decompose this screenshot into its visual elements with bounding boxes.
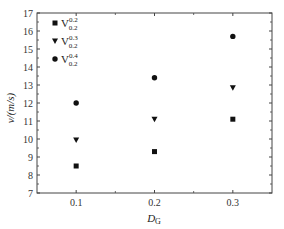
x-tick-label: 0.1: [70, 197, 83, 208]
legend-triangle-down-icon: [52, 39, 58, 45]
legend: V0.20.2V0.30.2V0.40.2: [52, 16, 78, 68]
legend-square-icon: [53, 21, 58, 26]
y-tick-label: 13: [23, 80, 33, 91]
y-tick-label: 9: [28, 152, 33, 163]
y-tick-label: 7: [28, 188, 33, 199]
y-tick-label: 17: [23, 8, 33, 19]
y-tick-label: 16: [23, 26, 33, 37]
legend-entry: V0.40.2: [61, 52, 78, 68]
x-axis-label: DG: [146, 212, 161, 226]
y-axis-label: v/(m/s): [4, 92, 17, 123]
circle-marker: [152, 75, 157, 80]
square-marker: [230, 117, 235, 122]
circle-marker: [73, 100, 78, 105]
y-tick-label: 14: [23, 62, 33, 73]
square-marker: [74, 164, 79, 169]
triangle-down-marker: [230, 85, 236, 91]
data-points: [73, 34, 236, 169]
triangle-down-marker: [73, 137, 79, 143]
triangle-down-marker: [152, 117, 158, 123]
y-tick-label: 15: [23, 44, 33, 55]
scatter-chart: 7891011121314151617 0.10.20.3 V0.20.2V0.…: [0, 0, 284, 229]
x-tick-label: 0.2: [148, 197, 161, 208]
legend-entry: V0.30.2: [61, 34, 78, 50]
x-tick-label: 0.3: [227, 197, 240, 208]
x-axis: 0.10.20.3: [70, 13, 239, 208]
y-tick-label: 12: [23, 98, 33, 109]
y-tick-label: 8: [28, 170, 33, 181]
circle-marker: [230, 34, 235, 39]
square-marker: [152, 149, 157, 154]
y-tick-label: 10: [23, 134, 33, 145]
y-tick-label: 11: [23, 116, 33, 127]
legend-entry: V0.20.2: [61, 16, 78, 32]
legend-circle-icon: [52, 56, 57, 61]
